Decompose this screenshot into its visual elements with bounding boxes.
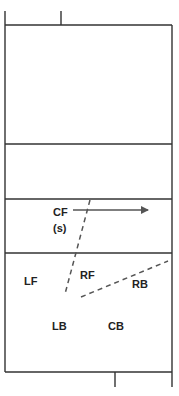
label-cf: CF [53, 206, 68, 218]
label-lb: LB [52, 320, 67, 332]
label-cf-sub: (s) [53, 222, 67, 234]
label-cb: CB [108, 320, 124, 332]
label-rf: RF [80, 269, 95, 281]
court-lines [5, 11, 172, 387]
volleyball-court-diagram: CF (s) LF RF RB LB CB [0, 0, 179, 396]
label-rb: RB [132, 278, 148, 290]
label-lf: LF [24, 275, 38, 287]
